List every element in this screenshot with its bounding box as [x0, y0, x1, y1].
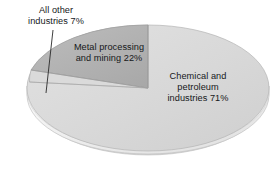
pie-chart-figure: All other industries 7% Metal processing…: [0, 0, 276, 169]
slice-label-other: All other industries 7%: [8, 5, 104, 27]
slice-label-metal-line2: and mining 22%: [57, 53, 161, 64]
slice-label-metal: Metal processing and mining 22%: [57, 42, 161, 64]
slice-label-other-line1: All other: [8, 5, 104, 16]
slice-label-chemical-line1: Chemical and: [150, 71, 246, 82]
slice-label-other-line2: industries 7%: [8, 16, 104, 27]
slice-label-chemical-line2: petroleum: [150, 82, 246, 93]
slice-label-metal-line1: Metal processing: [57, 42, 161, 53]
slice-label-chemical: Chemical and petroleum industries 71%: [150, 71, 246, 105]
slice-label-chemical-line3: industries 71%: [150, 93, 246, 104]
